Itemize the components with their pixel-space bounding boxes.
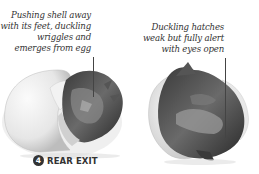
left-caption-line: emerges from egg: [1, 43, 91, 54]
right-caption-line: weak but fully alert: [143, 33, 224, 44]
left-leader-line: [93, 57, 94, 97]
left-caption-line: with its feet, duckling: [1, 21, 91, 32]
right-caption-line: Duckling hatches: [143, 22, 224, 33]
left-caption-line: Pushing shell away: [1, 10, 91, 21]
right-leader-line: [225, 58, 226, 138]
stage-title: REAR EXIT: [47, 156, 98, 166]
right-caption: Duckling hatches weak but fully alert wi…: [143, 22, 224, 55]
right-egg-illustration: [149, 62, 249, 165]
left-caption: Pushing shell away with its feet, duckli…: [1, 10, 91, 54]
stage-label: 4 REAR EXIT: [33, 155, 98, 166]
left-egg-illustration: [2, 70, 123, 159]
left-caption-line: wriggles and: [1, 32, 91, 43]
stage-number-badge: 4: [33, 155, 44, 166]
right-caption-line: with eyes open: [143, 44, 224, 55]
